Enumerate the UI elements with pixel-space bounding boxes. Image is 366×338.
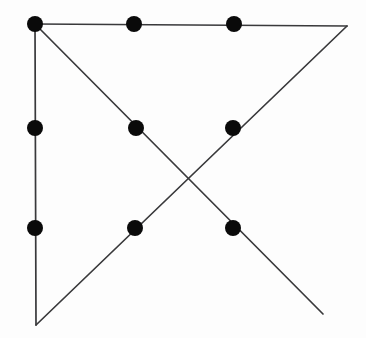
grid-dot-top-right [226, 16, 242, 32]
grid-dot-top-center [126, 16, 142, 32]
line-segment-main-diagonal-down [35, 24, 323, 314]
grid-dot-bottom-center [127, 220, 143, 236]
grid-dot-top-left [27, 16, 43, 32]
line-segment-top-horizontal [35, 24, 347, 26]
grid-dot-bottom-right [225, 220, 241, 236]
grid-dot-bottom-left [27, 220, 43, 236]
grid-dot-middle-right [225, 120, 241, 136]
segments-layer [35, 24, 347, 325]
grid-dot-middle-center [128, 120, 144, 136]
line-diagram-svg [0, 0, 366, 338]
grid-dot-middle-left [27, 120, 43, 136]
line-segment-left-vertical [35, 24, 36, 325]
figure-canvas [0, 0, 366, 338]
